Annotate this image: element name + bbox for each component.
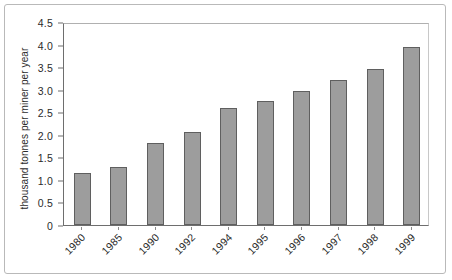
- x-tick-label: 1994: [209, 231, 235, 257]
- x-tick-label: 1980: [62, 231, 88, 257]
- x-tick-mark: [411, 227, 412, 230]
- x-tick-mark: [118, 227, 119, 230]
- x-tick-mark: [155, 227, 156, 230]
- y-tick-label: 0: [47, 220, 53, 232]
- x-tick-mark: [301, 227, 302, 230]
- x-tick-label: 1998: [355, 231, 381, 257]
- x-tick-label: 1999: [392, 231, 418, 257]
- bar-1994: [220, 108, 237, 225]
- plot-area: [63, 23, 429, 226]
- x-tick-mark: [191, 227, 192, 230]
- bar-1997: [330, 80, 347, 225]
- x-tick-label: 1996: [282, 231, 308, 257]
- y-tick-label: 2.5: [38, 107, 53, 119]
- x-tick-mark: [228, 227, 229, 230]
- x-tick-label: 1995: [245, 231, 271, 257]
- x-tick-mark: [264, 227, 265, 230]
- x-tick-label: 1992: [172, 231, 198, 257]
- bar-1985: [110, 167, 127, 225]
- bar-1992: [184, 132, 201, 225]
- bar-1980: [74, 173, 91, 225]
- bar-1995: [257, 101, 274, 226]
- y-tick-label: 3.0: [38, 85, 53, 97]
- y-tick-label: 1.0: [38, 175, 53, 187]
- x-tick-mark: [81, 227, 82, 230]
- x-tick-label: 1985: [99, 231, 125, 257]
- bar-1996: [293, 91, 310, 225]
- bars-layer: [64, 24, 428, 225]
- bar-1998: [367, 69, 384, 225]
- bar-chart: thousand tonnes per miner per year 00.51…: [5, 5, 447, 275]
- x-tick-mark: [374, 227, 375, 230]
- y-tick-label: 3.5: [38, 62, 53, 74]
- x-tick-mark: [338, 227, 339, 230]
- bar-1999: [403, 47, 420, 225]
- y-tick-label: 2.0: [38, 130, 53, 142]
- y-axis: thousand tonnes per miner per year 00.51…: [5, 5, 63, 245]
- figure-frame: thousand tonnes per miner per year 00.51…: [4, 4, 446, 274]
- x-axis: 1980198519901992199419951996199719981999: [63, 227, 429, 275]
- x-tick-label: 1997: [318, 231, 344, 257]
- y-tick-label: 0.5: [38, 197, 53, 209]
- x-tick-label: 1990: [135, 231, 161, 257]
- y-tick-label: 1.5: [38, 152, 53, 164]
- y-tick-label: 4.0: [38, 40, 53, 52]
- bar-1990: [147, 143, 164, 225]
- y-tick-label: 4.5: [38, 17, 53, 29]
- y-axis-title: thousand tonnes per miner per year: [19, 24, 30, 234]
